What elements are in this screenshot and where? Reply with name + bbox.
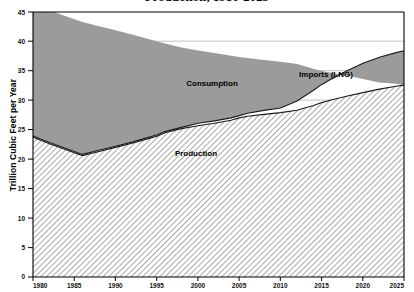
y-axis-tick-labels: 0 5 10 15 20 25 30 35 40 45 [18,9,26,281]
x-tick-label: 2015 [314,282,329,289]
x-tick-label: 1980 [33,282,48,289]
x-axis-tick-labels: 1980 1985 1990 1995 2000 2005 2010 2015 … [33,282,404,289]
x-tick-label: 2025 [390,282,405,289]
x-tick-label: 1985 [67,282,82,289]
y-tick-label: 5 [21,244,25,251]
annotation-consumption: Consumption [186,79,238,88]
x-tick-label: 2010 [273,282,288,289]
y-axis-ticks [28,12,33,277]
x-tick-label: 2000 [191,282,206,289]
y-tick-label: 35 [18,67,26,74]
y-tick-label: 45 [18,9,26,16]
y-tick-label: 20 [18,156,26,163]
y-tick-label: 15 [18,185,26,192]
y-tick-label: 10 [18,215,26,222]
chart-plot-area: 0 5 10 15 20 25 30 35 40 45 1980 [0,0,414,292]
x-tick-label: 1990 [108,282,123,289]
x-axis-ticks [33,277,404,281]
y-tick-label: 0 [21,273,25,280]
x-tick-label: 2005 [232,282,247,289]
annotation-production: Production [175,149,217,158]
annotation-imports-lng: Imports (LNG) [299,70,353,79]
chart-container: Production, 1980-2025 Trillion Cubic Fee… [0,0,414,292]
y-tick-label: 25 [18,126,26,133]
x-tick-label: 2020 [356,282,371,289]
y-tick-label: 30 [18,97,26,104]
y-tick-label: 40 [18,38,26,45]
x-tick-label: 1995 [149,282,164,289]
